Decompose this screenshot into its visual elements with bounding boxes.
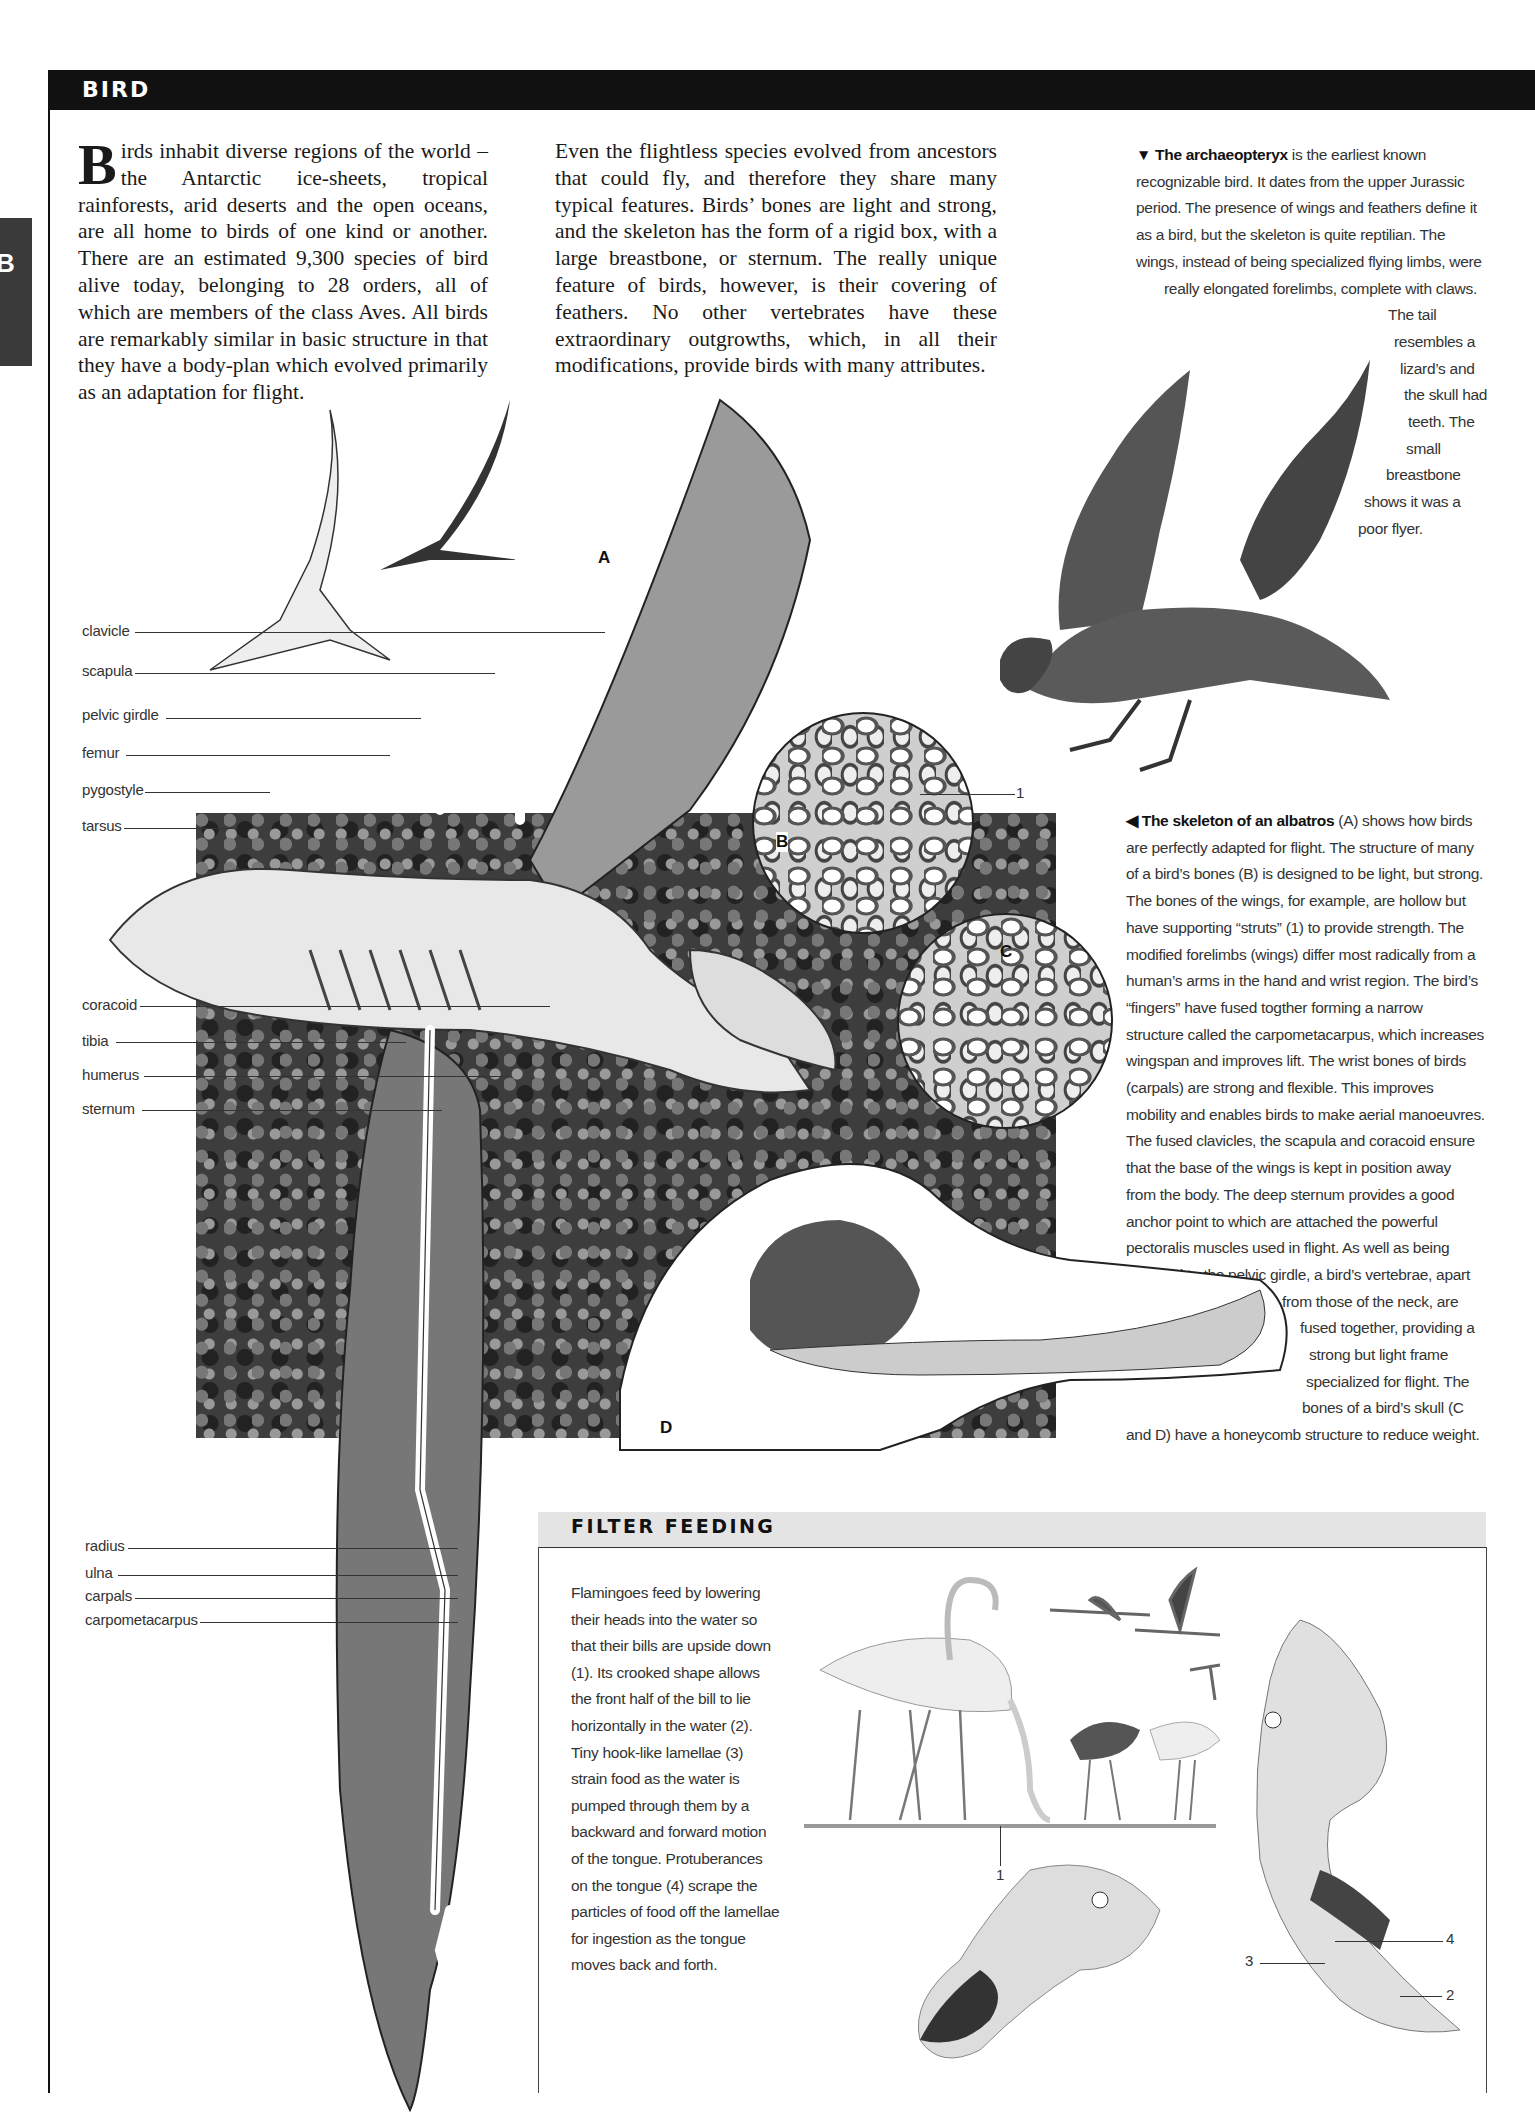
leader-line <box>135 673 495 674</box>
leader-line <box>118 1575 458 1576</box>
filter-feeding-text: Flamingoes feed by lowering their heads … <box>571 1580 781 1979</box>
caption-line: period. The presence of wings and feathe… <box>1136 195 1487 222</box>
intro-column-1: Birds inhabit diverse regions of the wor… <box>78 138 488 406</box>
diagram-letter-b: B <box>776 832 788 852</box>
label-carpals: carpals <box>85 1587 132 1604</box>
diagram-letter-d: D <box>660 1418 672 1438</box>
leader-line <box>126 755 390 756</box>
caption-line: modified forelimbs (wings) differ most r… <box>1126 942 1485 969</box>
bone-strut-magnifier-b <box>752 712 974 934</box>
leader-line <box>920 794 1015 795</box>
leader-line <box>124 828 234 829</box>
caption-line: (A) shows how birds <box>1334 812 1472 829</box>
caption-line: mobility and enables birds to make aeria… <box>1126 1102 1485 1129</box>
leader-line <box>142 1110 442 1111</box>
callout-2: 2 <box>1446 1986 1454 2003</box>
caption-line: are perfectly adapted for flight. The st… <box>1126 835 1485 862</box>
caption-line: of a bird’s bones (B) is designed to be … <box>1126 861 1485 888</box>
callout-struts: 1 <box>1016 784 1024 801</box>
leader-line <box>1335 1941 1443 1942</box>
label-tarsus: tarsus <box>82 817 122 834</box>
label-tibia: tibia <box>82 1032 109 1049</box>
caption-line: The bones of the wings, for example, are… <box>1126 888 1485 915</box>
caption-lead: The skeleton of an albatros <box>1142 812 1335 829</box>
albatross-skull-illustration-d <box>620 1140 1300 1460</box>
caption-line: (carpals) are strong and flexible. This … <box>1126 1075 1485 1102</box>
flamingo-bill-cross-section <box>1240 1620 1480 2060</box>
label-femur: femur <box>82 744 119 761</box>
frame-divider <box>48 110 50 2093</box>
intro-text-1: irds inhabit diverse regions of the worl… <box>78 139 488 404</box>
label-carpometacarpus: carpometacarpus <box>85 1611 198 1628</box>
label-ulna: ulna <box>85 1564 113 1581</box>
label-radius: radius <box>85 1537 125 1554</box>
label-scapula: scapula <box>82 662 132 679</box>
leader-line <box>135 1598 458 1599</box>
leader-line <box>1260 1963 1325 1964</box>
caption-line: is the earliest known <box>1288 146 1426 163</box>
thumb-tab-letter: B <box>0 248 15 279</box>
label-pelvic-girdle: pelvic girdle <box>82 706 159 723</box>
leader-line <box>1400 1996 1442 1997</box>
leader-line <box>144 1076 509 1077</box>
caption-line: structure called the carpometacarpus, wh… <box>1126 1022 1485 1049</box>
leader-line <box>166 718 421 719</box>
diagram-letter-a: A <box>598 548 610 568</box>
drop-cap: B <box>78 142 117 188</box>
leader-line <box>135 632 605 633</box>
caption-line: recognizable bird. It dates from the upp… <box>1136 169 1487 196</box>
leader-line <box>200 1622 458 1623</box>
page-title: BIRD <box>82 77 150 102</box>
leader-line <box>128 1548 458 1549</box>
leader-line <box>145 792 270 793</box>
leader-line <box>116 1042 406 1043</box>
label-sternum: sternum <box>82 1100 135 1117</box>
callout-4: 4 <box>1446 1930 1454 1947</box>
label-coracoid: coracoid <box>82 996 137 1013</box>
caption-line: “fingers” have fused togther forming a n… <box>1126 995 1485 1022</box>
caption-line: as a bird, but the skeleton is quite rep… <box>1136 222 1487 249</box>
leader-line <box>140 1006 550 1007</box>
caption-line: have supporting “struts” (1) to provide … <box>1126 915 1485 942</box>
caption-lead: The archaeopteryx <box>1155 146 1288 163</box>
caption-line: human’s arms in the hand and wrist regio… <box>1126 968 1485 995</box>
label-humerus: humerus <box>82 1066 139 1083</box>
triangle-down-icon: ▼ <box>1136 146 1151 163</box>
label-pygostyle: pygostyle <box>82 781 144 798</box>
diagram-letter-c: C <box>1000 942 1012 962</box>
flamingo-flock-illustration <box>800 1570 1220 1830</box>
caption-line: wings, instead of being specialized flyi… <box>1136 249 1487 276</box>
header-bar <box>48 70 1535 110</box>
caption-line: really elongated forelimbs, complete wit… <box>1136 276 1487 303</box>
flamingo-head-illustration <box>880 1850 1180 2070</box>
intro-column-2: Even the flightless species evolved from… <box>555 138 997 379</box>
label-clavicle: clavicle <box>82 622 130 639</box>
caption-line: wingspan and improves lift. The wrist bo… <box>1126 1048 1485 1075</box>
filter-feeding-title: FILTER FEEDING <box>571 1515 775 1537</box>
water-line <box>804 1824 1216 1828</box>
chapter-thumb-tab: B <box>0 218 32 366</box>
callout-3: 3 <box>1245 1952 1253 1969</box>
